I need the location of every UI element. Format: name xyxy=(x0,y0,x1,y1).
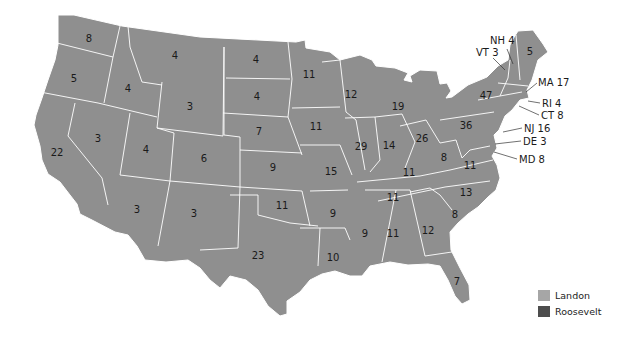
state-label-wy: 3 xyxy=(187,102,193,112)
state-label-ga: 12 xyxy=(422,226,435,236)
state-label-pa: 36 xyxy=(460,121,473,131)
state-label-mn: 11 xyxy=(303,70,316,80)
callout-nj: NJ 16 xyxy=(524,124,550,134)
state-label-la: 10 xyxy=(327,253,340,263)
legend-swatch-roosevelt xyxy=(538,306,550,317)
state-label-wa: 8 xyxy=(86,34,92,44)
state-label-az: 3 xyxy=(134,205,140,215)
state-label-me: 5 xyxy=(527,47,533,57)
state-label-ar: 9 xyxy=(330,209,336,219)
legend-label-landon: Landon xyxy=(555,290,590,301)
callout-de: DE 3 xyxy=(523,137,547,147)
legend-label-roosevelt: Roosevelt xyxy=(555,306,601,317)
state-label-nv: 3 xyxy=(95,134,101,144)
state-label-oh: 26 xyxy=(416,134,429,144)
callout-ct: CT 8 xyxy=(541,111,564,121)
state-label-ok: 11 xyxy=(276,201,289,211)
state-label-ne: 7 xyxy=(256,127,262,137)
callout-ri: RI 4 xyxy=(542,99,561,109)
state-label-fl: 7 xyxy=(454,277,460,287)
state-label-tn: 11 xyxy=(387,193,400,203)
state-label-wv: 8 xyxy=(441,153,447,163)
state-label-ca: 22 xyxy=(51,148,64,158)
callout-ma: MA 17 xyxy=(538,78,569,88)
state-label-ia: 11 xyxy=(310,122,323,132)
state-label-nm: 3 xyxy=(191,209,197,219)
state-label-mo: 15 xyxy=(325,167,338,177)
state-label-ut: 4 xyxy=(143,145,149,155)
state-label-nd: 4 xyxy=(253,55,259,65)
state-label-in: 14 xyxy=(383,141,396,151)
state-label-ms: 9 xyxy=(362,229,368,239)
legend-item-roosevelt: Roosevelt xyxy=(538,303,601,319)
state-label-co: 6 xyxy=(201,154,207,164)
state-label-wi: 12 xyxy=(345,90,358,100)
state-label-sd: 4 xyxy=(254,92,260,102)
map-legend: Landon Roosevelt xyxy=(538,287,601,319)
state-label-va: 11 xyxy=(464,161,477,171)
state-label-ks: 9 xyxy=(270,163,276,173)
state-label-or: 5 xyxy=(71,74,77,84)
state-label-sc: 8 xyxy=(452,210,458,220)
state-label-nc: 13 xyxy=(460,188,473,198)
state-label-mt: 4 xyxy=(172,51,178,61)
state-label-tx: 23 xyxy=(252,251,265,261)
callout-md: MD 8 xyxy=(519,155,545,165)
state-label-ny: 47 xyxy=(480,91,493,101)
legend-item-landon: Landon xyxy=(538,287,601,303)
state-label-al: 11 xyxy=(387,229,400,239)
state-label-mi: 19 xyxy=(392,102,405,112)
callout-nh: NH 4 xyxy=(490,36,515,46)
callout-vt: VT 3 xyxy=(476,48,499,58)
legend-swatch-landon xyxy=(538,290,550,301)
state-label-il: 29 xyxy=(355,142,368,152)
state-label-ky: 11 xyxy=(403,168,416,178)
state-label-id: 4 xyxy=(125,84,131,94)
